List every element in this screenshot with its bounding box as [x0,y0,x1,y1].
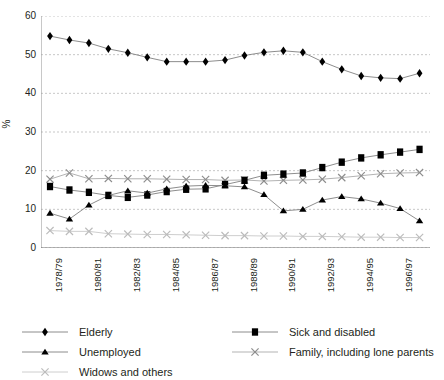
legend-marker-cross-light-icon [22,365,68,379]
x-axis-tick: 1978/79 [54,258,64,292]
legend-label: Elderly [79,327,113,338]
y-axis-tick: 0 [30,243,36,253]
legend-marker-diamond-icon [22,325,68,339]
y-axis-tick: 30 [25,127,36,137]
x-axis-tick: 1980/81 [93,258,103,292]
legend-row-2: Unemployed Family, including lone parent… [22,342,432,362]
x-axis-tick: 1988/89 [249,258,259,292]
series-unemployed [46,182,423,223]
legend-label: Unemployed [79,347,141,358]
legend-item-unemployed: Unemployed [22,342,141,362]
legend-item-widows-and-others: Widows and others [22,362,173,380]
chart-legend: Elderly Sick and disabled Unemployed Fam… [22,322,432,380]
legend-label: Widows and others [79,367,173,378]
y-axis-tick: 40 [25,88,36,98]
chart-root: % 0102030405060 1978/791980/811982/83198… [0,0,444,380]
x-axis-tick: 1990/91 [287,258,297,292]
x-axis-tick: 1994/95 [365,258,375,292]
x-axis-tick: 1982/83 [132,258,142,292]
x-axis-tick: 1992/93 [326,258,336,292]
x-axis-tick: 1986/87 [210,258,220,292]
series-elderly [47,32,422,83]
x-axis-labels: 1978/791980/811982/831984/851986/871988/… [41,258,430,312]
plot-area: 0102030405060 [41,16,430,248]
legend-item-elderly: Elderly [22,322,113,342]
gridlines [41,16,430,248]
series-sick-and-disabled [47,146,423,201]
y-axis-label: % [1,120,12,129]
legend-label: Sick and disabled [289,327,375,338]
plot-svg [41,16,430,248]
y-axis-tick: 10 [25,204,36,214]
x-axis-tick: 1984/85 [171,258,181,292]
legend-marker-cross-icon [232,345,278,359]
y-axis-tick: 20 [25,166,36,176]
legend-row-3: Widows and others [22,362,432,380]
y-axis-tick: 60 [25,11,36,21]
legend-label: Family, including lone parents [289,347,434,358]
legend-marker-triangle-icon [22,345,68,359]
legend-marker-square-icon [232,325,278,339]
legend-row-1: Elderly Sick and disabled [22,322,432,342]
y-axis-tick: 50 [25,50,36,60]
legend-item-sick-and-disabled: Sick and disabled [232,322,375,342]
legend-item-family-including-lone-parents: Family, including lone parents [232,342,434,362]
x-axis-tick: 1996/97 [404,258,414,292]
series-widows-and-others [46,227,423,241]
